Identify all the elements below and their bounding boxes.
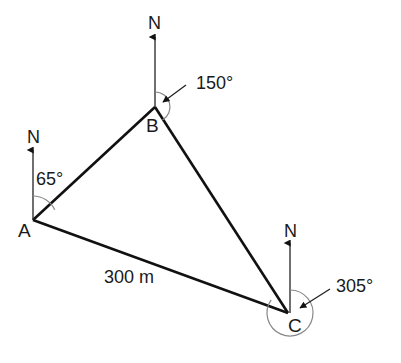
pointer-arrow-b	[163, 85, 186, 102]
side-ac	[33, 220, 288, 313]
north-label-c: N	[284, 222, 297, 240]
bearing-label-b: 150°	[196, 74, 233, 92]
distance-label-ac: 300 m	[104, 268, 154, 286]
bearings-diagram: N N N A B C 65° 150° 305° 300 m	[0, 0, 401, 363]
vertex-label-b: B	[146, 116, 159, 135]
north-label-a: N	[27, 128, 40, 146]
north-label-b: N	[148, 14, 161, 32]
side-bc	[155, 107, 288, 313]
vertex-label-c: C	[288, 316, 302, 335]
bearing-label-c: 305°	[336, 277, 373, 295]
side-ab	[33, 107, 155, 220]
pointer-arrow-c	[300, 289, 330, 308]
vertex-label-a: A	[18, 221, 31, 240]
bearing-label-a: 65°	[36, 170, 63, 188]
